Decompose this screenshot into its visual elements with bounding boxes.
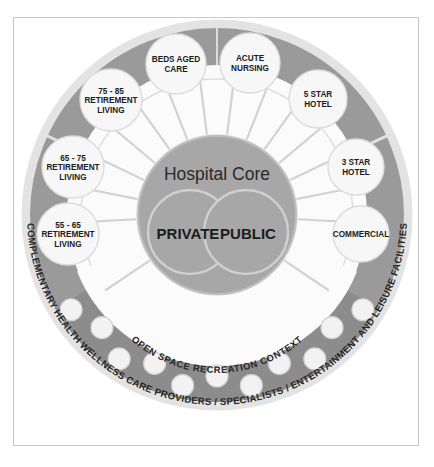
bubble-acute-nursing[interactable]: ACUTENURSING [220,33,280,93]
bubble-label-line: HOTEL [342,168,370,177]
diagram-canvas: Hospital Core PRIVATE PUBLIC BEDS AGEDCA… [0,0,434,467]
facility-dot[interactable] [91,317,113,339]
bubble-label-line: 5 STAR [304,90,333,99]
bubble-retirement-55-65[interactable]: 55 - 65RETIREMENTLIVING [37,203,99,265]
facility-dot[interactable] [321,317,343,339]
bubble-label-line: RETIREMENT [84,96,137,105]
bubble-label-line: RETIREMENT [46,163,99,172]
bubble-label-line: ACUTE [236,54,265,63]
bubble-label-line: LIVING [97,106,124,115]
bubble-commercial[interactable]: COMMERCIAL [333,206,389,262]
concentric-hospital-diagram: Hospital Core PRIVATE PUBLIC BEDS AGEDCA… [0,0,434,467]
private-label: PRIVATE [157,225,220,242]
bubble-beds-aged-care[interactable]: BEDS AGEDCARE [146,34,206,94]
bubble-three-star-hotel[interactable]: 3 STARHOTEL [328,139,384,195]
bubble-label-line: 65 - 75 [60,154,86,163]
bubble-label-line: 55 - 65 [55,221,81,230]
bubble-five-star-hotel[interactable]: 5 STARHOTEL [289,70,347,128]
bubble-retirement-75-85[interactable]: 75 - 85RETIREMENTLIVING [80,69,142,131]
bubble-label-line: LIVING [54,240,81,249]
bubble-label-line: HOTEL [304,100,332,109]
bubble-label-line: NURSING [231,64,269,73]
bubble-retirement-65-75[interactable]: 65 - 75RETIREMENTLIVING [42,136,104,198]
bubble-label-line: 75 - 85 [98,87,124,96]
bubble-label-line: BEDS AGED [152,55,200,64]
bubble-label-line: COMMERCIAL [333,230,389,239]
bubble-label-line: RETIREMENT [41,230,94,239]
bubble-label-line: LIVING [59,173,86,182]
hospital-core-label: Hospital Core [164,164,270,184]
bubble-label-line: CARE [164,65,188,74]
public-label: PUBLIC [220,225,276,242]
bubble-label-line: 3 STAR [342,158,371,167]
